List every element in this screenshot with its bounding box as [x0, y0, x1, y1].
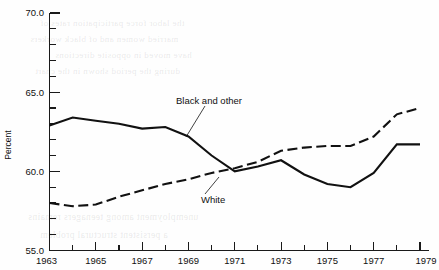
- x-axis-tick-labels: 196319651967196919711973197519771979: [36, 255, 437, 266]
- x-tick-label: 1965: [85, 255, 106, 266]
- line-chart: 55.060.065.070.0 19631965196719691971197…: [0, 0, 439, 270]
- x-tick-label: 1969: [178, 255, 199, 266]
- x-tick-label: 1977: [363, 255, 384, 266]
- y-axis-tick-labels: 55.060.065.070.0: [26, 7, 45, 256]
- y-tick-label: 60.0: [26, 166, 45, 177]
- series-label-white: White: [201, 194, 225, 205]
- y-tick-label: 70.0: [26, 7, 45, 18]
- chart-annotations: Black and other White: [176, 95, 242, 205]
- x-tick-label: 1973: [270, 255, 291, 266]
- x-tick-label: 1967: [132, 255, 153, 266]
- chart-figure: the labor force participation rates of m…: [0, 0, 439, 270]
- x-tick-label: 1975: [317, 255, 338, 266]
- y-axis-ticks: [50, 13, 60, 251]
- series-label-black-and-other: Black and other: [176, 95, 242, 106]
- x-tick-label: 1971: [224, 255, 245, 266]
- series-line-black-and-other: [50, 118, 421, 188]
- chart-axes: [50, 13, 430, 251]
- y-axis-title: Percent: [3, 130, 13, 160]
- x-tick-label: 1979: [415, 255, 436, 266]
- chart-series: [50, 108, 421, 206]
- x-axis-ticks: [50, 242, 421, 251]
- x-tick-label: 1963: [36, 255, 57, 266]
- leader-line-white: [205, 177, 219, 194]
- y-tick-label: 65.0: [26, 87, 45, 98]
- leader-line-black-and-other: [186, 106, 205, 137]
